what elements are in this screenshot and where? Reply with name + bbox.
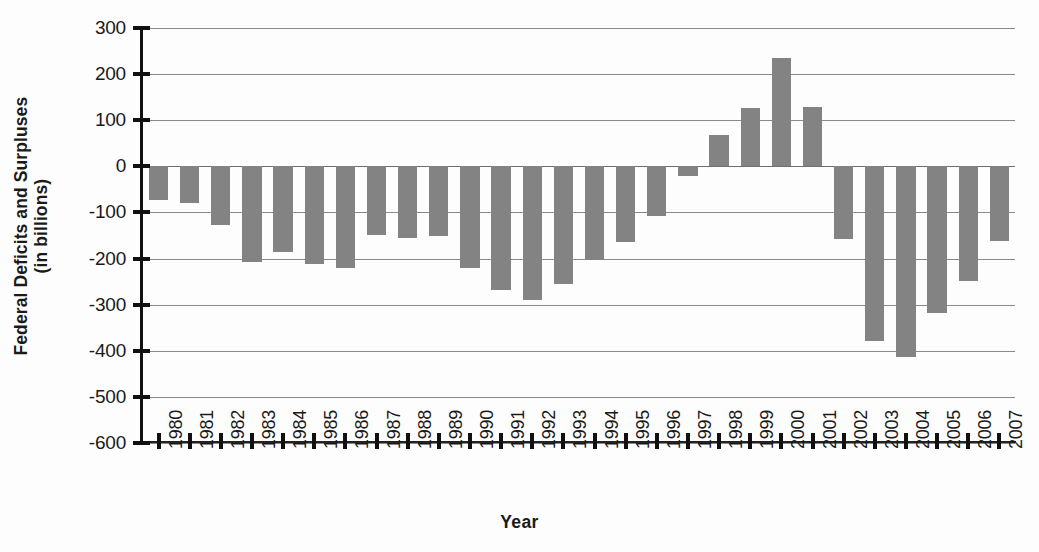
x-axis-tick-mark bbox=[717, 433, 721, 449]
x-axis-tick-label: 1994 bbox=[602, 410, 623, 449]
y-axis-title: Federal Deficits and Surpluses (in billi… bbox=[0, 0, 62, 452]
plot-area bbox=[143, 28, 1015, 443]
y-axis-tick-label: -100 bbox=[89, 201, 126, 223]
bar bbox=[367, 166, 386, 235]
bar bbox=[398, 166, 417, 237]
y-axis-tick-mark bbox=[133, 257, 150, 261]
bar bbox=[678, 166, 697, 176]
y-axis-tick-label: -300 bbox=[89, 294, 126, 316]
x-axis-tick-mark bbox=[655, 433, 659, 449]
x-axis-tick-label: 1987 bbox=[384, 410, 405, 449]
x-axis-tick-mark bbox=[904, 433, 908, 449]
y-axis-tick-label: 100 bbox=[95, 109, 126, 131]
x-axis-tick-mark bbox=[157, 433, 161, 449]
y-axis-tick-mark bbox=[133, 441, 150, 445]
x-axis-tick-label: 1980 bbox=[166, 410, 187, 449]
y-axis-tick-label: 0 bbox=[116, 155, 126, 177]
bar bbox=[709, 135, 728, 167]
x-axis-tick-mark bbox=[935, 433, 939, 449]
x-axis-tick-mark bbox=[811, 433, 815, 449]
y-axis-tick-label: -600 bbox=[89, 432, 126, 454]
x-axis-tick-label: 1996 bbox=[664, 410, 685, 449]
x-axis-tick-label: 2004 bbox=[913, 410, 934, 449]
bar bbox=[772, 58, 791, 167]
bar bbox=[554, 166, 573, 284]
y-axis-tick-mark bbox=[133, 303, 150, 307]
gridline bbox=[143, 120, 1015, 121]
x-axis-tick-mark bbox=[343, 433, 347, 449]
bar bbox=[429, 166, 448, 236]
x-axis-tick-mark bbox=[219, 433, 223, 449]
x-axis-tick-label: 1989 bbox=[446, 410, 467, 449]
x-axis-tick-label: 1983 bbox=[259, 410, 280, 449]
x-axis-tick-label: 2003 bbox=[882, 410, 903, 449]
x-axis-tick-mark bbox=[997, 433, 1001, 449]
x-axis-tick-mark bbox=[779, 433, 783, 449]
x-axis-tick-mark bbox=[437, 433, 441, 449]
x-axis-tick-label: 1991 bbox=[508, 410, 529, 449]
y-axis-tick-mark bbox=[133, 349, 150, 353]
bar bbox=[460, 166, 479, 268]
y-axis-tick-label: -400 bbox=[89, 340, 126, 362]
x-axis-tick-label: 1998 bbox=[726, 410, 747, 449]
x-axis-tick-label: 1999 bbox=[757, 410, 778, 449]
bar bbox=[990, 166, 1009, 241]
bar bbox=[865, 166, 884, 340]
x-axis-tick-mark bbox=[593, 433, 597, 449]
x-axis-tick-mark bbox=[375, 433, 379, 449]
x-axis-tick-mark bbox=[188, 433, 192, 449]
gridline bbox=[143, 28, 1015, 29]
y-axis-title-line2: (in billions) bbox=[31, 97, 51, 356]
x-axis-tick-label: 2005 bbox=[944, 410, 965, 449]
bar bbox=[803, 107, 822, 166]
x-axis-tick-label: 1986 bbox=[352, 410, 373, 449]
x-axis-tick-label: 2007 bbox=[1006, 410, 1027, 449]
bar bbox=[616, 166, 635, 242]
x-axis-tick-label: 2000 bbox=[788, 410, 809, 449]
x-axis-tick-mark bbox=[250, 433, 254, 449]
bar bbox=[149, 166, 168, 200]
y-axis-tick-mark bbox=[133, 164, 150, 168]
x-axis-tick-mark bbox=[686, 433, 690, 449]
y-axis-tick-labels: 3002001000-100-200-300-400-500-600 bbox=[62, 0, 138, 452]
x-axis-tick-label: 2002 bbox=[851, 410, 872, 449]
x-axis-tick-label: 1982 bbox=[228, 410, 249, 449]
bar bbox=[211, 166, 230, 225]
x-axis-tick-mark bbox=[842, 433, 846, 449]
bar bbox=[959, 166, 978, 280]
bar bbox=[647, 166, 666, 215]
y-axis-tick-mark bbox=[133, 118, 150, 122]
x-axis-tick-label: 1984 bbox=[290, 410, 311, 449]
x-axis-tick-labels: 1980198119821983198419851986198719881989… bbox=[143, 443, 1015, 513]
bar bbox=[523, 166, 542, 300]
x-axis-tick-mark bbox=[312, 433, 316, 449]
x-axis-tick-mark bbox=[530, 433, 534, 449]
y-axis-tick-label: -200 bbox=[89, 248, 126, 270]
x-axis-tick-mark bbox=[873, 433, 877, 449]
y-axis-tick-mark bbox=[133, 72, 150, 76]
y-axis-tick-label: 300 bbox=[95, 17, 126, 39]
x-axis-tick-label: 1985 bbox=[321, 410, 342, 449]
x-axis-tick-label: 1993 bbox=[570, 410, 591, 449]
x-axis-tick-mark bbox=[499, 433, 503, 449]
gridline bbox=[143, 351, 1015, 352]
y-axis-tick-label: 200 bbox=[95, 63, 126, 85]
x-axis-tick-mark bbox=[561, 433, 565, 449]
x-axis-tick-mark bbox=[966, 433, 970, 449]
gridline bbox=[143, 397, 1015, 398]
x-axis-tick-label: 1988 bbox=[415, 410, 436, 449]
y-axis-tick-mark bbox=[133, 210, 150, 214]
x-axis-tick-mark bbox=[624, 433, 628, 449]
y-axis-tick-mark bbox=[133, 26, 150, 30]
x-axis-tick-label: 2001 bbox=[820, 410, 841, 449]
bar bbox=[305, 166, 324, 264]
x-axis-tick-label: 1990 bbox=[477, 410, 498, 449]
x-axis-title: Year bbox=[0, 512, 1039, 533]
bar bbox=[834, 166, 853, 239]
bar bbox=[927, 166, 946, 313]
bar bbox=[242, 166, 261, 262]
x-axis-tick-label: 1997 bbox=[695, 410, 716, 449]
bar bbox=[180, 166, 199, 202]
bar bbox=[491, 166, 510, 290]
bar bbox=[336, 166, 355, 268]
